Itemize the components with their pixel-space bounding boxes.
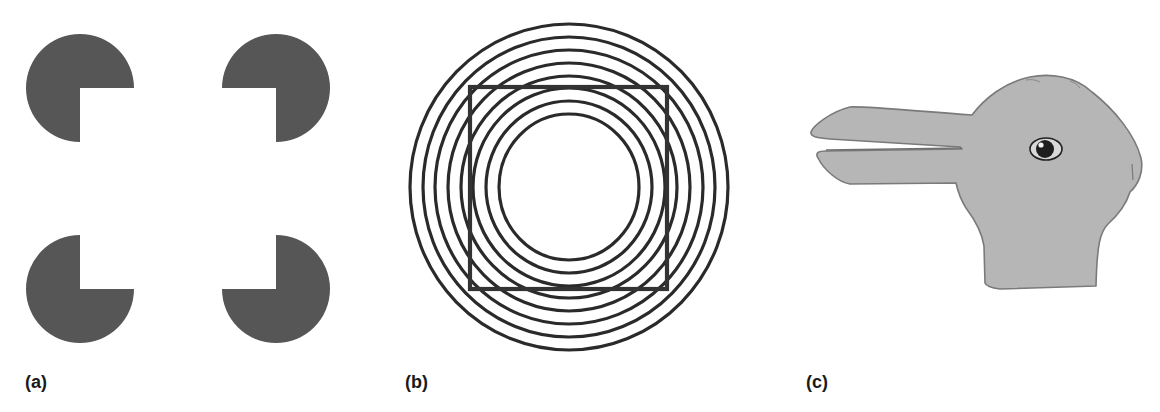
panel-b-concentric [410, 24, 728, 350]
figure-canvas [0, 0, 1160, 412]
pacman-top-left-icon [26, 34, 134, 142]
pacman-top-right-icon [222, 34, 330, 142]
ring-5 [461, 76, 677, 298]
eye-icon [1030, 138, 1062, 160]
pacman-bottom-right-icon [222, 235, 330, 343]
ring-7 [486, 101, 652, 273]
panel-c-duck-rabbit [811, 75, 1142, 289]
ring-6 [473, 88, 665, 286]
panel-label-c: (c) [806, 372, 828, 392]
ring-8 [499, 114, 639, 260]
pacman-bottom-left-icon [26, 235, 134, 343]
illusion-figure: (a) (b) (c) [0, 0, 1160, 412]
panel-label-a: (a) [25, 372, 47, 392]
ring-1 [410, 24, 728, 350]
panel-a-kanizsa [26, 34, 330, 343]
duck-rabbit-icon [811, 75, 1142, 289]
panel-label-b: (b) [405, 372, 428, 392]
ring-3 [435, 50, 703, 324]
ring-2 [423, 37, 715, 337]
